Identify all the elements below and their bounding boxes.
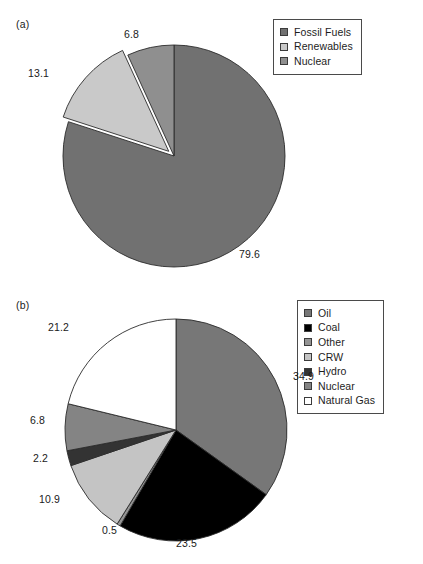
legend-item-label: Oil [318,308,331,319]
pie-a-value-label: 6.8 [124,28,139,40]
panel-b-legend-item[interactable]: Hydro [304,364,375,379]
pie-a-value-label: 79.6 [239,248,260,260]
legend-swatch-icon [280,43,288,51]
pie-b-value-label: 0.5 [102,524,117,536]
legend-item-label: Hydro [318,366,347,377]
legend-panel-a: Fossil FuelsRenewablesNuclear [273,19,362,75]
panel-b-legend-item[interactable]: Other [304,335,375,350]
legend-swatch-icon [304,397,312,405]
legend-item-label: Nuclear [294,56,331,67]
panel-a-legend-item[interactable]: Nuclear [280,54,353,69]
pie-b-value-label: 34.9 [293,370,314,382]
legend-item-label: Nuclear [318,381,355,392]
legend-item-label: Renewables [294,41,353,52]
legend-swatch-icon [304,309,312,317]
legend-swatch-icon [304,382,312,390]
pie-b-value-label: 2.2 [33,452,48,464]
legend-swatch-icon [304,353,312,361]
legend-swatch-icon [280,28,288,36]
pie-chart-panel-a: (a) Fossil FuelsRenewablesNuclear 6.813.… [0,0,423,282]
panel-b-legend-item[interactable]: CRW [304,350,375,365]
panel-a-legend-item[interactable]: Renewables [280,40,353,55]
panel-a-legend-item[interactable]: Fossil Fuels [280,25,353,40]
legend-item-label: Natural Gas [318,395,375,406]
pie-b-value-label: 21.2 [48,321,69,333]
legend-item-label: Fossil Fuels [294,27,351,38]
pie-a-value-label: 13.1 [28,67,49,79]
pie-b-value-label: 6.8 [30,414,45,426]
pie-b-value-label: 23.5 [176,537,197,549]
panel-b-legend-item[interactable]: Nuclear [304,379,375,394]
legend-item-label: Coal [318,322,340,333]
legend-swatch-icon [280,57,288,65]
pie-b-value-label: 10.9 [39,493,60,505]
legend-panel-b: OilCoalOtherCRWHydroNuclearNatural Gas [297,300,384,414]
legend-item-label: Other [318,337,345,348]
panel-b-legend-item[interactable]: Natural Gas [304,394,375,409]
panel-b-legend-item[interactable]: Oil [304,306,375,321]
legend-swatch-icon [304,338,312,346]
legend-swatch-icon [304,324,312,332]
legend-item-label: CRW [318,352,343,363]
panel-b-legend-item[interactable]: Coal [304,321,375,336]
